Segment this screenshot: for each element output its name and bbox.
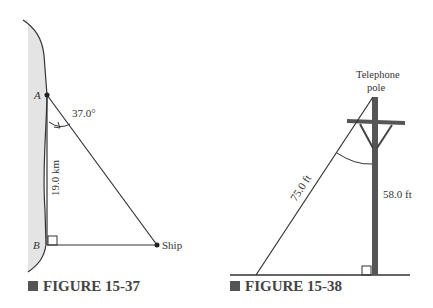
caption-square <box>28 281 38 291</box>
figure-15-37: A B Ship 37.0° 19.0 km FIGURE 15-37 <box>23 20 183 294</box>
point-a-dot <box>45 93 50 98</box>
brace-left <box>360 124 373 148</box>
angle-label: 37.0° <box>72 107 96 119</box>
pole-label-line2: pole <box>367 82 385 93</box>
brace-right <box>377 125 392 148</box>
right-angle-marker <box>362 266 371 275</box>
caption-square <box>230 281 240 291</box>
figure-caption: FIGURE 15-38 <box>245 278 342 294</box>
guy-wire <box>256 97 373 275</box>
figure-15-38: Telephone pole 75.0 ft 58.0 ft FIGURE 15… <box>230 69 412 294</box>
right-angle-marker <box>48 236 57 245</box>
shoreline <box>23 20 47 272</box>
wire-length-label: 75.0 ft <box>288 172 314 203</box>
figures-canvas: A B Ship 37.0° 19.0 km FIGURE 15-37 Tele… <box>0 0 433 308</box>
point-b-label: B <box>33 239 40 251</box>
distance-label: 19.0 km <box>49 160 61 197</box>
ship-dot <box>155 243 160 248</box>
figure-caption: FIGURE 15-37 <box>43 278 141 294</box>
ship-label: Ship <box>162 239 183 251</box>
angle-arc <box>337 153 372 164</box>
hypotenuse-a-ship <box>47 95 157 245</box>
point-a-label: A <box>33 89 41 101</box>
pole-height-label: 58.0 ft <box>383 188 412 200</box>
pole-label-line1: Telephone <box>356 69 400 80</box>
